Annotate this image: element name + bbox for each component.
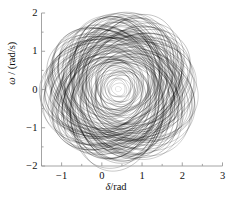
phase-portrait-figure: −10123 −2−1012 δ/rad ω / (rad/s) — [0, 0, 232, 201]
x-axis-unit: /rad — [110, 181, 126, 192]
x-tick-label: 1 — [139, 171, 144, 182]
x-axis-title: δ/rad — [105, 182, 126, 193]
y-tick-label: 1 — [18, 46, 38, 57]
y-tick-label: −2 — [18, 161, 38, 172]
y-axis-title: ω / (rad/s) — [7, 42, 18, 85]
x-tick-label: 3 — [220, 171, 225, 182]
y-tick-label: −1 — [18, 123, 38, 134]
orbit-trajectories — [39, 12, 198, 171]
y-tick-label: 0 — [18, 84, 38, 95]
y-tick-label: 2 — [18, 8, 38, 19]
y-axis-symbol: ω — [6, 77, 17, 84]
x-tick-label: 2 — [180, 171, 185, 182]
x-tick-label: −1 — [56, 171, 67, 182]
x-tick-label: 0 — [99, 171, 104, 182]
y-axis-unit: / (rad/s) — [6, 42, 17, 78]
